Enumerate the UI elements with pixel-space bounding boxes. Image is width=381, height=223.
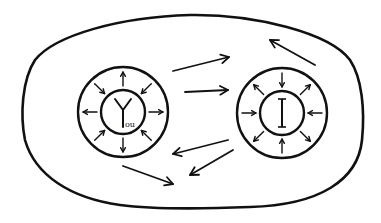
node-i: I — [237, 68, 327, 158]
node-you: ouYou — [78, 67, 168, 157]
diagram-svg: ouYouI — [0, 0, 381, 223]
node-you-label-sub: ou — [125, 120, 135, 129]
diagram-canvas: ouYouI — [0, 0, 381, 223]
background — [0, 0, 381, 223]
